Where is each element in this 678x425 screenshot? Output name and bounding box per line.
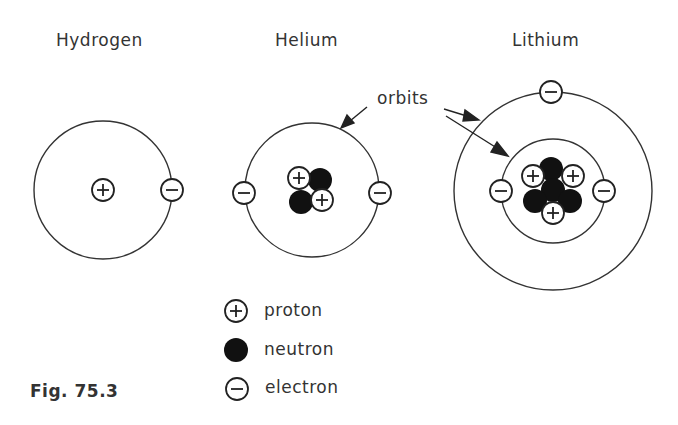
atom-diagram (0, 0, 678, 425)
electron-icon (233, 182, 255, 204)
orbits-annotation: orbits (377, 88, 428, 108)
helium-orbit (245, 123, 379, 257)
legend-electron-icon (226, 378, 248, 400)
electron-icon (593, 180, 615, 202)
proton-icon (288, 167, 310, 189)
legend-proton-label: proton (264, 300, 323, 320)
legend-electron-label: electron (265, 377, 338, 397)
electron-icon (369, 182, 391, 204)
proton-icon (92, 179, 114, 201)
lithium-atom (454, 81, 652, 290)
electron-icon (490, 180, 512, 202)
hydrogen-atom (34, 121, 183, 259)
electron-icon (540, 81, 562, 103)
proton-icon (311, 189, 333, 211)
legend-neutron-icon (224, 338, 248, 362)
legend-proton-icon (225, 300, 247, 322)
figure-caption: Fig. 75.3 (30, 381, 118, 401)
helium-atom (233, 123, 391, 257)
lithium-label: Lithium (512, 30, 579, 50)
proton-icon (562, 165, 584, 187)
orbit-arrows (341, 107, 508, 156)
proton-icon (522, 165, 544, 187)
neutron-icon (289, 190, 313, 214)
legend-icons (224, 300, 248, 400)
proton-icon (542, 202, 564, 224)
electron-icon (161, 179, 183, 201)
helium-label: Helium (275, 30, 338, 50)
legend-neutron-label: neutron (264, 339, 334, 359)
hydrogen-label: Hydrogen (56, 30, 143, 50)
